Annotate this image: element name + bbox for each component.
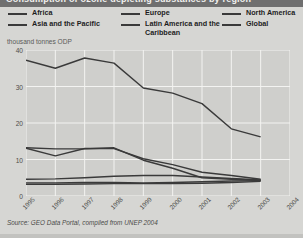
source-note: Source: GEO Data Portal, compiled from U… [7, 219, 158, 226]
legend-line-icon [8, 13, 27, 15]
legend-label: Europe [145, 9, 170, 17]
legend-label: Global [246, 20, 268, 28]
x-axis-tick-label: 1996 [50, 196, 65, 211]
legend-label: North America [246, 9, 295, 17]
bottom-rule [0, 234, 303, 238]
cropped-title-bar: Consumption of ozone depleting substance… [0, 0, 303, 7]
legend-line-icon [121, 24, 140, 26]
y-axis-tick-label: 30 [16, 83, 23, 90]
x-axis-tick-label: 2000 [168, 196, 183, 211]
y-axis-unit-caption: thousand tonnes ODP [7, 38, 72, 45]
x-axis-tick-label: 2003 [256, 196, 271, 211]
x-axis-tick-label: 1999 [138, 196, 153, 211]
legend-label: Africa [32, 9, 52, 17]
legend-item-global: Global [222, 20, 303, 28]
y-axis-tick-label: 0 [19, 193, 23, 200]
y-axis-tick-label: 20 [16, 120, 23, 127]
legend-line-icon [8, 24, 27, 26]
y-axis-tick-label: 40 [16, 47, 23, 54]
legend-column-2: Europe Latin America and the Caribbean [121, 9, 226, 40]
legend-label: Asia and the Pacific [32, 20, 100, 28]
legend-column-1: Africa Asia and the Pacific [8, 9, 118, 32]
legend-item-north-america: North America [222, 9, 303, 17]
legend-item-latin-america: Latin America and the Caribbean [121, 20, 226, 37]
x-axis-tick-label: 1997 [80, 196, 95, 211]
y-axis-tick-label: 10 [16, 156, 23, 163]
legend-line-icon [121, 13, 140, 15]
chart-legend: Africa Asia and the Pacific Europe Latin… [0, 9, 303, 37]
x-axis-tick-label: 2001 [197, 196, 212, 211]
x-axis-tick-label: 2004 [285, 196, 300, 211]
legend-line-icon [222, 13, 241, 15]
plot-area: 0102030401995199619971998199920002001200… [26, 50, 290, 196]
legend-item-asia-pacific: Asia and the Pacific [8, 20, 118, 28]
figure-panel: Consumption of ozone depleting substance… [0, 0, 303, 238]
x-axis-tick-label: 2002 [226, 196, 241, 211]
figure-title: Consumption of ozone depleting substance… [6, 0, 251, 4]
legend-item-europe: Europe [121, 9, 226, 17]
legend-column-3: North America Global [222, 9, 303, 32]
legend-line-icon [222, 24, 241, 26]
plot-svg [26, 50, 290, 196]
legend-item-africa: Africa [8, 9, 118, 17]
legend-label: Latin America and the Caribbean [145, 20, 226, 37]
x-axis-tick-label: 1998 [109, 196, 124, 211]
